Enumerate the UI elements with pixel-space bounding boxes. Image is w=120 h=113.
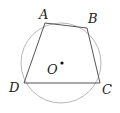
label-c: C	[102, 82, 112, 97]
label-o: O	[47, 62, 58, 77]
geometry-diagram: A B C D O	[0, 0, 120, 113]
label-a: A	[38, 7, 48, 22]
label-b: B	[87, 11, 98, 26]
center-point	[60, 61, 63, 64]
label-d: D	[8, 80, 20, 95]
